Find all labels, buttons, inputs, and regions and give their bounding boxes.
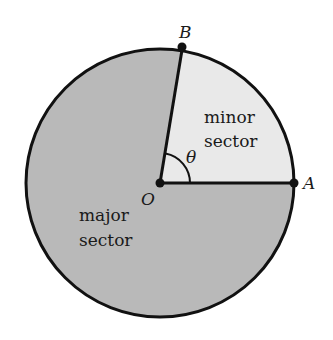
angle-label-theta: θ bbox=[186, 147, 196, 167]
circle-sector-diagram: B A O θ minor sector major sector bbox=[0, 0, 333, 340]
point-label-b: B bbox=[178, 22, 192, 42]
minor-sector-label-line2: sector bbox=[204, 131, 258, 151]
point-o-dot bbox=[156, 179, 165, 188]
point-label-o: O bbox=[141, 189, 155, 209]
major-sector-label-line1: major bbox=[79, 205, 130, 225]
point-b-dot bbox=[178, 43, 187, 52]
major-sector-label-line2: sector bbox=[79, 230, 133, 250]
minor-sector-label-line1: minor bbox=[204, 107, 256, 127]
point-a-dot bbox=[290, 179, 299, 188]
point-label-a: A bbox=[301, 173, 315, 193]
